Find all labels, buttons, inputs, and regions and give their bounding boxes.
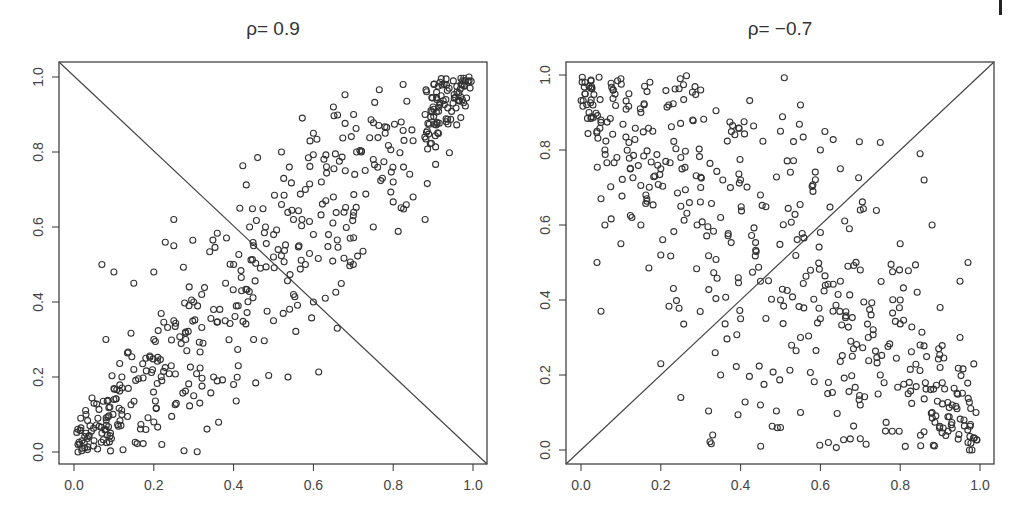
data-point: [186, 303, 192, 309]
data-point: [973, 410, 979, 416]
data-point: [211, 307, 217, 313]
data-point: [255, 155, 261, 161]
data-point: [155, 424, 161, 430]
data-point: [897, 297, 903, 303]
data-point: [837, 166, 843, 172]
data-point: [298, 257, 304, 263]
x-tick-label: 0.4: [224, 477, 244, 493]
data-point: [632, 125, 638, 131]
data-point: [333, 289, 339, 295]
data-point: [800, 134, 806, 140]
data-point: [881, 380, 887, 386]
data-point: [856, 139, 862, 145]
data-point: [596, 74, 602, 80]
data-point: [957, 278, 963, 284]
data-point: [643, 192, 649, 198]
y-tick-label: 0.8: [537, 140, 553, 160]
data-point: [240, 163, 246, 169]
data-point: [196, 339, 202, 345]
data-point: [297, 266, 303, 272]
data-point: [330, 258, 336, 264]
data-point: [108, 448, 114, 454]
data-point: [376, 87, 382, 93]
data-point: [181, 448, 187, 454]
data-point: [274, 227, 280, 233]
data-point: [671, 229, 677, 235]
x-tick-label: 0.8: [383, 477, 403, 493]
data-point: [238, 268, 244, 274]
data-point: [335, 112, 341, 118]
data-point: [244, 310, 250, 316]
data-point: [968, 406, 974, 412]
data-point: [878, 279, 884, 285]
data-point: [780, 114, 786, 120]
data-point: [283, 242, 289, 248]
data-point: [186, 381, 192, 387]
data-point: [812, 169, 818, 175]
y-tick-label: 0.0: [537, 440, 553, 460]
data-point: [883, 419, 889, 425]
data-point: [890, 297, 896, 303]
data-point: [710, 432, 716, 438]
data-point: [187, 403, 193, 409]
data-point: [807, 370, 813, 376]
data-point: [165, 325, 171, 331]
data-point: [888, 261, 894, 267]
data-point: [182, 300, 188, 306]
data-point: [404, 98, 410, 104]
data-point: [624, 147, 630, 153]
data-point: [598, 196, 604, 202]
data-point: [822, 273, 828, 279]
data-point: [338, 281, 344, 287]
data-point: [778, 297, 784, 303]
data-point: [793, 348, 799, 354]
data-point: [856, 175, 862, 181]
data-point: [250, 206, 256, 212]
data-point: [293, 328, 299, 334]
data-point: [199, 383, 205, 389]
data-point: [232, 314, 238, 320]
data-point: [897, 321, 903, 327]
data-point: [85, 418, 91, 424]
data-point: [893, 355, 899, 361]
data-point: [309, 315, 315, 321]
data-point: [299, 223, 305, 229]
data-point: [287, 306, 293, 312]
data-point: [279, 202, 285, 208]
data-point: [458, 115, 464, 121]
y-tick-label: 0.6: [30, 217, 46, 237]
data-point: [737, 308, 743, 314]
data-point: [919, 329, 925, 335]
data-point: [401, 164, 407, 170]
data-point: [467, 85, 473, 91]
data-point: [830, 308, 836, 314]
data-point: [793, 253, 799, 259]
data-point: [608, 216, 614, 222]
data-point: [453, 105, 459, 111]
data-point: [718, 372, 724, 378]
data-point: [195, 303, 201, 309]
data-point: [608, 184, 614, 190]
data-point: [709, 201, 715, 207]
data-point: [813, 348, 819, 354]
data-point: [918, 443, 924, 449]
data-point: [178, 341, 184, 347]
data-point: [668, 253, 674, 259]
data-point: [635, 163, 641, 169]
data-point: [724, 138, 730, 144]
data-point: [307, 181, 313, 187]
data-point: [324, 164, 330, 170]
data-point: [644, 89, 650, 95]
data-point: [756, 363, 762, 369]
data-point: [787, 367, 793, 373]
data-point: [363, 191, 369, 197]
data-point: [125, 385, 131, 391]
data-point: [758, 443, 764, 449]
data-point: [109, 373, 115, 379]
data-point: [638, 183, 644, 189]
data-point: [673, 146, 679, 152]
data-point: [889, 428, 895, 434]
data-point: [698, 185, 704, 191]
data-point: [638, 222, 644, 228]
data-point: [646, 184, 652, 190]
